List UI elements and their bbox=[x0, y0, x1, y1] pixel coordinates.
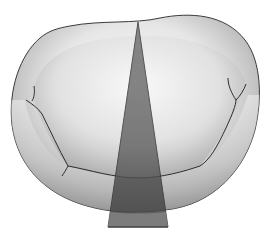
valve-diagram bbox=[0, 0, 270, 241]
wedge-outer-segment bbox=[108, 212, 168, 227]
valve-illustration bbox=[0, 0, 270, 241]
wedge-ring-segment bbox=[110, 177, 166, 214]
